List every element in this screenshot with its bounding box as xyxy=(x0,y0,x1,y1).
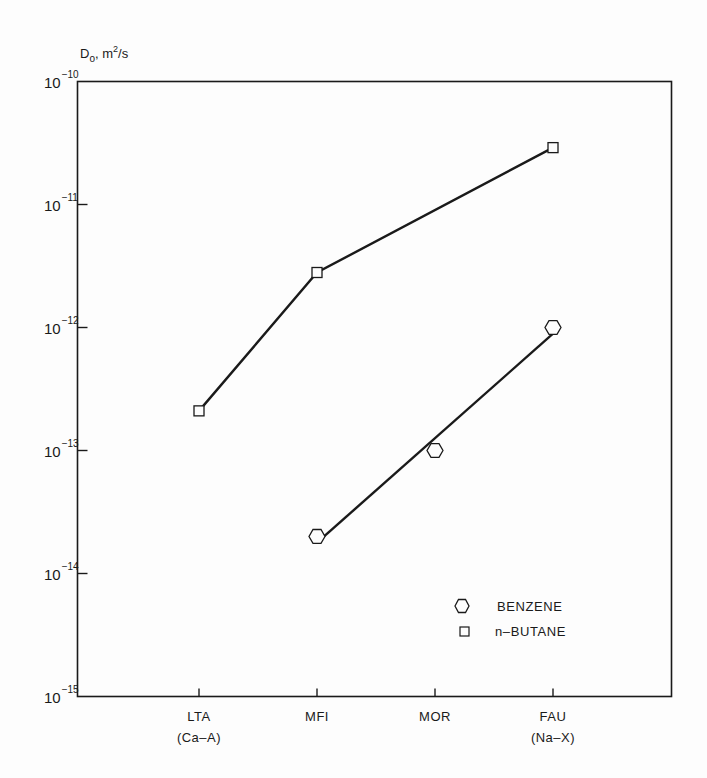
square-marker-icon xyxy=(312,267,322,277)
y-axis: 10−1010−1110−1210−1310−1410−15 xyxy=(44,69,88,706)
series-line xyxy=(199,148,553,411)
x-tick-sublabel: (Na–X) xyxy=(531,730,575,745)
legend-label-n-butane: n–BUTANE xyxy=(495,624,566,639)
legend-label-benzene: BENZENE xyxy=(497,599,563,614)
y-axis-label: Do, m2/s xyxy=(80,44,129,64)
x-tick-label: FAU xyxy=(540,709,567,724)
square-marker-icon xyxy=(548,143,558,153)
y-tick-label: 10−11 xyxy=(44,192,78,214)
legend-square-icon xyxy=(460,627,469,636)
series-layer xyxy=(194,143,561,544)
x-tick-label: MOR xyxy=(419,709,451,724)
plot-frame xyxy=(78,82,672,697)
legend: BENZENE n–BUTANE xyxy=(455,599,566,639)
hexagon-marker-icon xyxy=(545,321,561,335)
series-line xyxy=(317,334,553,543)
y-tick-label: 10−12 xyxy=(44,315,79,337)
y-tick-label: 10−13 xyxy=(44,438,79,460)
y-tick-label: 10−10 xyxy=(44,69,79,91)
x-tick-sublabel: (Ca–A) xyxy=(177,730,221,745)
y-tick-label: 10−15 xyxy=(44,684,79,706)
x-tick-label: LTA xyxy=(187,709,210,724)
chart-canvas: Do, m2/s 10−1010−1110−1210−1310−1410−15 … xyxy=(0,0,707,778)
x-tick-label: MFI xyxy=(305,709,329,724)
square-marker-icon xyxy=(194,406,204,416)
legend-hexagon-icon xyxy=(455,600,469,613)
y-tick-label: 10−14 xyxy=(44,561,79,583)
hexagon-marker-icon xyxy=(309,530,325,544)
hexagon-marker-icon xyxy=(427,444,443,458)
